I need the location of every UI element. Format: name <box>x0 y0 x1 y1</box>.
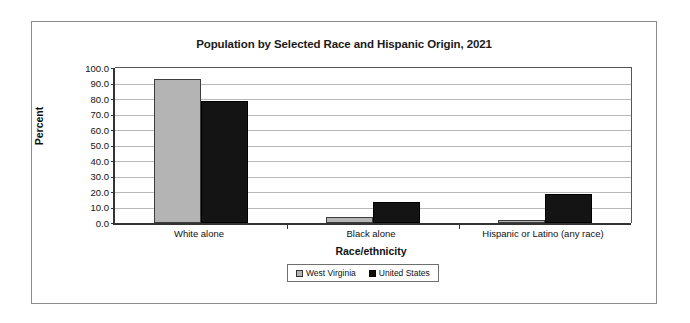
y-tick-mark <box>111 115 115 116</box>
plot-right-border <box>631 67 632 223</box>
y-axis-tick-label: 60.0 <box>62 126 109 135</box>
y-axis-tick-label: 90.0 <box>62 79 109 88</box>
x-axis-tick-label: White alone <box>174 228 224 239</box>
y-axis-tick-label: 50.0 <box>62 141 109 150</box>
y-axis-tick-label: 80.0 <box>62 95 109 104</box>
x-axis-tick-label: Black alone <box>346 228 395 239</box>
y-axis-title: Percent <box>33 86 45 166</box>
bar-united-states <box>545 194 592 223</box>
y-axis-tick-label: 10.0 <box>62 203 109 212</box>
chart-page: Population by Selected Race and Hispanic… <box>0 0 690 323</box>
chart-legend: West VirginiaUnited States <box>287 264 439 282</box>
legend-item: West Virginia <box>296 268 356 278</box>
bar-west-virginia <box>498 220 545 223</box>
plot-top-border <box>115 67 631 68</box>
y-axis-tick-label: 20.0 <box>62 188 109 197</box>
chart-title: Population by Selected Race and Hispanic… <box>31 38 657 50</box>
y-tick-mark <box>111 161 115 162</box>
legend-label: West Virginia <box>306 268 356 278</box>
bar-west-virginia <box>326 217 373 223</box>
legend-item: United States <box>369 268 430 278</box>
bar-united-states <box>201 101 248 223</box>
x-axis-tick-labels: White aloneBlack aloneHispanic or Latino… <box>113 228 629 242</box>
plot-area <box>113 68 631 225</box>
bar-west-virginia <box>154 79 201 223</box>
x-axis-title: Race/ethnicity <box>113 245 629 257</box>
y-axis-tick-label: 30.0 <box>62 172 109 181</box>
y-tick-mark <box>111 84 115 85</box>
y-tick-mark <box>111 130 115 131</box>
legend-swatch-icon <box>369 270 376 277</box>
y-tick-mark <box>111 192 115 193</box>
y-axis-tick-label: 0.0 <box>62 219 109 228</box>
legend-swatch-icon <box>296 270 303 277</box>
y-tick-mark <box>111 99 115 100</box>
y-tick-mark <box>111 68 115 69</box>
y-axis-tick-label: 100.0 <box>62 64 109 73</box>
x-axis-tick-label: Hispanic or Latino (any race) <box>482 228 603 239</box>
bar-united-states <box>373 202 420 223</box>
y-tick-mark <box>111 177 115 178</box>
y-axis-tick-labels: 100.090.080.070.060.050.040.030.020.010.… <box>62 64 109 224</box>
y-tick-mark <box>111 208 115 209</box>
legend-label: United States <box>379 268 430 278</box>
y-axis-tick-label: 40.0 <box>62 157 109 166</box>
y-tick-mark <box>111 146 115 147</box>
y-tick-mark <box>111 223 115 224</box>
y-axis-tick-label: 70.0 <box>62 110 109 119</box>
